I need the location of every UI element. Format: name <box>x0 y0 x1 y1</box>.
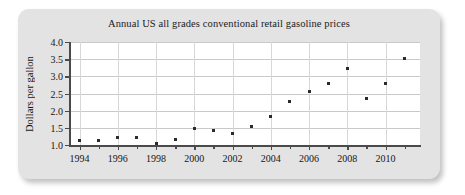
gridline-horizontal <box>70 76 420 77</box>
x-tick <box>118 146 119 150</box>
y-tick-label: 3.0 <box>51 71 64 82</box>
x-tick <box>347 146 348 150</box>
data-point <box>78 139 81 142</box>
x-tick-label: 2002 <box>223 153 243 164</box>
x-tick-minor <box>366 146 367 149</box>
data-point <box>97 139 100 142</box>
figure-panel: Annual US all grades conventional retail… <box>18 9 440 179</box>
gridline-horizontal <box>70 42 420 43</box>
x-tick <box>386 146 387 150</box>
data-point <box>250 125 253 128</box>
gridline-vertical <box>386 42 387 145</box>
x-tick-label: 2006 <box>299 153 319 164</box>
x-tick-minor <box>137 146 138 149</box>
x-tick <box>156 146 157 150</box>
data-point <box>269 115 272 118</box>
x-tick-label: 1996 <box>108 153 128 164</box>
gridline-vertical <box>80 42 81 145</box>
data-point <box>365 97 368 100</box>
y-tick <box>65 145 70 146</box>
x-tick-minor <box>213 146 214 149</box>
x-tick-minor <box>252 146 253 149</box>
data-point <box>231 132 234 135</box>
y-tick <box>65 42 70 43</box>
y-tick <box>65 76 70 77</box>
data-point <box>174 138 177 141</box>
x-axis-line <box>69 145 421 147</box>
data-point <box>346 67 349 70</box>
x-tick-label: 2000 <box>184 153 204 164</box>
y-tick <box>65 111 70 112</box>
x-tick <box>233 146 234 150</box>
chart-title: Annual US all grades conventional retail… <box>18 18 440 29</box>
data-point <box>403 57 406 60</box>
data-point <box>327 82 330 85</box>
y-tick-label: 2.0 <box>51 105 64 116</box>
data-point <box>308 90 311 93</box>
x-tick-label: 2004 <box>261 153 281 164</box>
plot-frame: 1.01.52.02.53.03.54.0 199419961998200020… <box>70 33 420 145</box>
x-tick-minor <box>405 146 406 149</box>
gridline-vertical <box>156 42 157 145</box>
gridline-vertical <box>309 42 310 145</box>
x-tick-label: 1998 <box>146 153 166 164</box>
y-axis-title: Dollars per gallon <box>22 42 36 146</box>
y-tick <box>65 94 70 95</box>
plot-area <box>70 42 420 145</box>
y-tick <box>65 128 70 129</box>
gridline-vertical <box>347 42 348 145</box>
gridline-horizontal <box>70 59 420 60</box>
data-point <box>116 136 119 139</box>
gridline-vertical <box>233 42 234 145</box>
x-tick-label: 2008 <box>337 153 357 164</box>
data-point <box>384 82 387 85</box>
x-tick-minor <box>99 146 100 149</box>
gridline-vertical <box>271 42 272 145</box>
y-tick-label: 1.0 <box>51 140 64 151</box>
gridline-horizontal <box>70 94 420 95</box>
x-tick-label: 1994 <box>70 153 90 164</box>
x-tick-minor <box>175 146 176 149</box>
data-point <box>193 127 196 130</box>
x-tick <box>271 146 272 150</box>
x-tick-label: 2010 <box>376 153 396 164</box>
x-tick-minor <box>328 146 329 149</box>
x-tick <box>80 146 81 150</box>
y-tick-label: 2.5 <box>51 88 64 99</box>
y-tick-label: 4.0 <box>51 37 64 48</box>
data-point <box>212 129 215 132</box>
y-tick <box>65 59 70 60</box>
y-tick-label: 1.5 <box>51 122 64 133</box>
y-tick-label: 3.5 <box>51 54 64 65</box>
x-tick <box>309 146 310 150</box>
x-tick-minor <box>290 146 291 149</box>
gridline-horizontal <box>70 111 420 112</box>
data-point <box>135 136 138 139</box>
data-point <box>288 100 291 103</box>
x-tick <box>194 146 195 150</box>
gridline-vertical <box>118 42 119 145</box>
gridline-horizontal <box>70 128 420 129</box>
